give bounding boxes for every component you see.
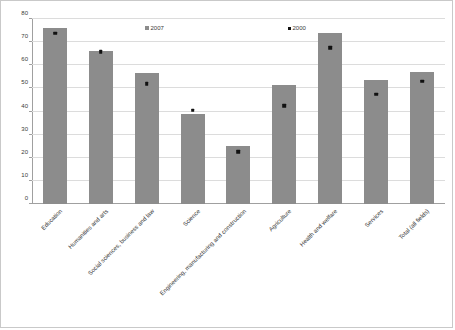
chart-figure: 01020304050607080 EducationHumanities an…	[0, 0, 453, 328]
data-point-marker	[374, 92, 378, 96]
data-point-marker	[145, 82, 149, 86]
marker-slot	[32, 19, 78, 204]
y-tick-label-30: 30	[21, 126, 28, 132]
data-point-marker	[99, 50, 103, 54]
y-tick-label-70: 70	[21, 33, 28, 39]
y-tick-label-50: 50	[21, 79, 28, 85]
marker-slot	[353, 19, 399, 204]
data-point-marker	[53, 32, 57, 36]
y-tick-label-40: 40	[21, 103, 28, 109]
x-axis-label: Science	[182, 208, 201, 227]
data-point-marker	[191, 109, 195, 113]
x-axis-label: Education	[40, 208, 63, 231]
x-axis-label: Health and welfare	[299, 208, 339, 248]
legend-marker-swatch-icon	[288, 27, 291, 30]
y-tick-label-60: 60	[21, 56, 28, 62]
data-point-marker	[420, 80, 424, 84]
legend-bar-swatch-icon	[145, 26, 149, 30]
data-point-marker	[237, 150, 241, 154]
marker-slot	[399, 19, 445, 204]
y-tick-label-20: 20	[21, 149, 28, 155]
marker-slot	[78, 19, 124, 204]
marker-slot	[261, 19, 307, 204]
data-point-marker	[283, 104, 287, 108]
x-axis-label: Engineering, manufacturing and construct…	[158, 208, 246, 296]
x-axis-label: Agriculture	[268, 208, 293, 233]
legend-item-2007: 2007	[145, 25, 164, 31]
legend-label-2000: 2000	[293, 25, 306, 31]
legend-label-2007: 2007	[151, 25, 164, 31]
y-tick-label-0: 0	[25, 195, 28, 201]
marker-slot	[307, 19, 353, 204]
data-point-marker	[328, 46, 332, 50]
x-axis-label: Services	[364, 208, 385, 229]
x-axis-label: Total (all fields)	[398, 208, 431, 241]
marker-slot	[170, 19, 216, 204]
plot-area: 01020304050607080	[32, 19, 445, 204]
marker-slot	[124, 19, 170, 204]
x-axis-label: Humanities and arts	[67, 208, 109, 250]
legend-item-2000: 2000	[288, 25, 306, 31]
y-tick-label-80: 80	[21, 10, 28, 16]
marker-slot	[216, 19, 262, 204]
y-tick-label-10: 10	[21, 172, 28, 178]
